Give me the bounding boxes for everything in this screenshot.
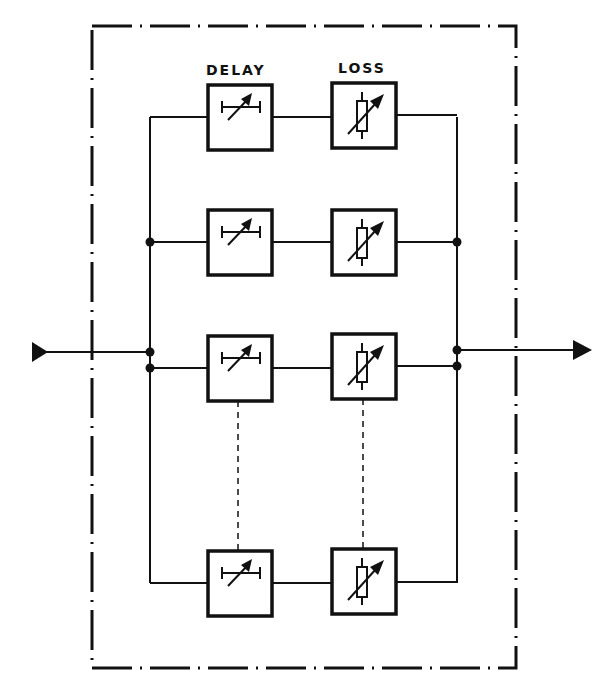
variable-resistor-icon: [332, 334, 396, 399]
junction-dots: [146, 238, 462, 373]
output-arrow-icon: [573, 340, 592, 360]
variable-resistor-icon: [332, 83, 396, 148]
variable-resistor-icon: [332, 210, 396, 275]
variable-delay-icon: [208, 210, 272, 275]
loss-element-row3: [332, 334, 396, 399]
variable-delay-icon: [208, 551, 272, 616]
variable-delay-icon: [208, 336, 272, 401]
loss-element-rowN: [332, 549, 396, 614]
delay-element-row3: [208, 336, 272, 401]
variable-resistor-icon: [332, 549, 396, 614]
network-diagram: [0, 0, 611, 693]
loss-element-row2: [332, 210, 396, 275]
delay-element-rowN: [208, 551, 272, 616]
input-arrow-icon: [32, 342, 48, 362]
variable-delay-icon: [208, 85, 272, 150]
row-wires: [150, 115, 457, 583]
delay-element-row1: [208, 85, 272, 150]
enclosure-border: [92, 26, 516, 668]
loss-element-row1: [332, 83, 396, 148]
delay-element-row2: [208, 210, 272, 275]
